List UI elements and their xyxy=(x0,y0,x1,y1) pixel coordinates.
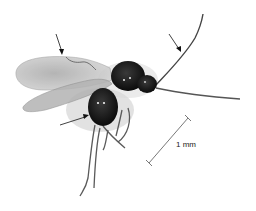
gaster xyxy=(88,88,118,126)
head xyxy=(137,75,157,93)
wasp-illustration xyxy=(0,0,256,211)
specimen-figure: 1 mm xyxy=(0,0,256,211)
antenna-arrow xyxy=(169,34,181,52)
scale-bar-label: 1 mm xyxy=(176,140,196,149)
antennae xyxy=(156,14,240,99)
wing-vein-arrow xyxy=(56,34,64,55)
